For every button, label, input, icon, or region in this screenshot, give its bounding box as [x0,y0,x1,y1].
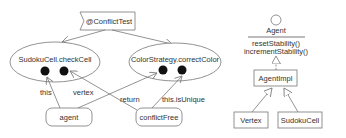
method-node-label: ColorStrategy.correctColor [131,55,220,64]
edge-annotation-to-correctcolor [112,30,172,44]
class-name: SudokuCell [281,116,320,125]
method-node-checkcell[interactable]: SudokuCell.checkCell [10,42,100,82]
param-dot-icon [178,66,187,75]
interface-agent[interactable]: Agent resetStability() incrementStabilit… [244,15,309,56]
edge-label-vertex: vertex [73,88,94,97]
class-name: Vertex [240,116,262,125]
edge-label-isunique: this.isUnique [162,95,205,104]
param-dot-icon [41,67,50,76]
edge-annotation-to-checkcell [62,30,105,42]
param-dot-icon [159,66,168,75]
value-node-label: agent [60,113,80,122]
param-dot-icon [60,67,69,76]
edge-label-return: return [120,95,140,104]
annotation-flag: @ConflictTest [80,12,135,30]
method-node-correctcolor[interactable]: ColorStrategy.correctColor [129,43,221,81]
value-node-agent[interactable]: agent [46,108,92,126]
edge-generalization-vertex [252,88,272,112]
interface-method: incrementStability() [244,47,309,56]
class-agentimpl[interactable]: AgentImpl [254,70,297,86]
value-node-conflictfree[interactable]: conflictFree [136,108,182,126]
interface-lollipop-icon [271,15,281,25]
class-name: AgentImpl [259,74,293,83]
diagram-canvas: @ConflictTest SudokuCell.checkCell Color… [0,0,346,138]
edge-generalization-sudokucell [284,88,298,112]
interface-name: Agent [266,26,287,35]
method-node-label: SudokuCell.checkCell [19,55,92,64]
class-vertex[interactable]: Vertex [234,112,268,128]
class-sudokucell[interactable]: SudokuCell [278,112,322,128]
edge-label-this: this [40,88,52,97]
value-node-label: conflictFree [140,113,179,122]
annotation-label: @ConflictTest [86,17,133,26]
